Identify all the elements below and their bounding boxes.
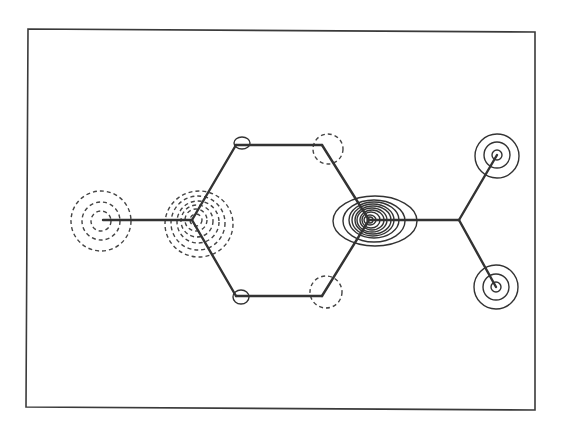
positive-phase-contours	[233, 134, 519, 309]
bond-branch-upper	[459, 155, 497, 220]
bond-ring-c1-c2	[192, 145, 236, 220]
dashed-contour-ring-c1	[171, 196, 225, 250]
bond-ring-c4-c5	[322, 220, 369, 296]
molecular-skeleton	[103, 145, 497, 296]
solid-contour-ring-c2	[234, 137, 250, 149]
dashed-contour-ring-c5	[310, 276, 342, 308]
contour-diagram	[0, 0, 563, 438]
dashed-contour-ring-c3	[313, 134, 343, 164]
bond-ring-c3-c4	[322, 145, 369, 220]
bond-ring-c6-c1	[192, 220, 236, 296]
molecular-orbital-contour-figure	[0, 0, 563, 438]
bond-branch-lower	[459, 220, 496, 287]
